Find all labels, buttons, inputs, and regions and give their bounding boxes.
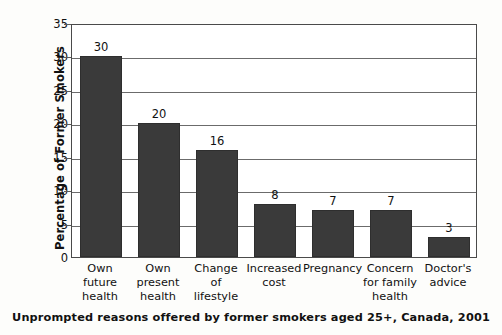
bar-value-label: 7 bbox=[370, 194, 412, 208]
y-axis-tick-label: 30 bbox=[28, 50, 68, 64]
x-axis-category-line: Own bbox=[129, 262, 187, 276]
x-axis-category-label: Doctor'sadvice bbox=[419, 262, 477, 290]
y-axis-tick-mark bbox=[64, 225, 71, 226]
bar[interactable]: 16 bbox=[196, 23, 238, 257]
plot-area: 3020168773 bbox=[71, 24, 477, 258]
x-axis-category-line: health bbox=[361, 290, 419, 304]
x-axis-category-line: Increased bbox=[245, 262, 303, 276]
bar-rect bbox=[254, 204, 296, 257]
bar-chart-figure: Percentage of Former Smokers 05101520253… bbox=[0, 0, 502, 335]
x-axis-category-line: present bbox=[129, 276, 187, 290]
x-axis-category-label: Changeoflifestyle bbox=[187, 262, 245, 305]
y-axis-tick-label: 10 bbox=[28, 184, 68, 198]
y-axis-tick-mark bbox=[64, 24, 71, 25]
x-axis-category-line: lifestyle bbox=[187, 290, 245, 304]
y-axis-tick-label: 15 bbox=[28, 151, 68, 165]
x-axis-category-line: Doctor's bbox=[419, 262, 477, 276]
x-axis-category-line: for family bbox=[361, 276, 419, 290]
bar[interactable]: 20 bbox=[138, 23, 180, 257]
x-axis-category-label: Concernfor familyhealth bbox=[361, 262, 419, 305]
bar-value-label: 20 bbox=[138, 107, 180, 121]
bar[interactable]: 8 bbox=[254, 23, 296, 257]
x-axis-category-line: health bbox=[71, 290, 129, 304]
y-axis-tick-mark bbox=[64, 57, 71, 58]
x-axis-category-line: future bbox=[71, 276, 129, 290]
y-axis-tick-mark bbox=[64, 158, 71, 159]
y-axis-tick-mark bbox=[64, 91, 71, 92]
x-axis-category-line: of bbox=[187, 276, 245, 290]
x-axis-category-line: Concern bbox=[361, 262, 419, 276]
y-axis-tick-label: 0 bbox=[28, 251, 68, 265]
x-axis-category-line: cost bbox=[245, 276, 303, 290]
bar[interactable]: 7 bbox=[312, 23, 354, 257]
chart-caption: Unprompted reasons offered by former smo… bbox=[0, 311, 502, 324]
bar-rect bbox=[428, 237, 470, 257]
bar-rect bbox=[138, 123, 180, 257]
x-axis-category-label: Ownfuturehealth bbox=[71, 262, 129, 305]
y-axis-tick-label: 35 bbox=[28, 17, 68, 31]
bar-rect bbox=[370, 210, 412, 257]
x-axis-category-line: Change bbox=[187, 262, 245, 276]
bar-value-label: 8 bbox=[254, 188, 296, 202]
bar-value-label: 7 bbox=[312, 194, 354, 208]
y-axis-tick-label: 25 bbox=[28, 84, 68, 98]
y-axis-tick-mark bbox=[64, 191, 71, 192]
bar-value-label: 3 bbox=[428, 221, 470, 235]
y-axis-tick-label: 5 bbox=[28, 218, 68, 232]
x-axis-category-line: Own bbox=[71, 262, 129, 276]
bar[interactable]: 3 bbox=[428, 23, 470, 257]
y-axis-tick-mark bbox=[64, 124, 71, 125]
bar-value-label: 16 bbox=[196, 134, 238, 148]
bar-rect bbox=[196, 150, 238, 257]
bar-rect bbox=[312, 210, 354, 257]
y-axis-tick-label: 20 bbox=[28, 117, 68, 131]
x-axis-category-line: advice bbox=[419, 276, 477, 290]
x-axis-category-label: Increasedcost bbox=[245, 262, 303, 290]
x-axis-category-label: Ownpresenthealth bbox=[129, 262, 187, 305]
x-axis-category-line: health bbox=[129, 290, 187, 304]
bar[interactable]: 7 bbox=[370, 23, 412, 257]
x-axis-category-line: Pregnancy bbox=[303, 262, 361, 276]
bar[interactable]: 30 bbox=[80, 23, 122, 257]
bar-value-label: 30 bbox=[80, 40, 122, 54]
x-axis-category-label: Pregnancy bbox=[303, 262, 361, 276]
bar-rect bbox=[80, 56, 122, 257]
